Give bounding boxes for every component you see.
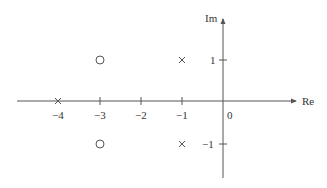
imag-tick-label: −1: [202, 138, 214, 150]
pole-x-icon: [179, 141, 185, 147]
imag-axis-label: Im: [205, 12, 218, 24]
origin-label: 0: [227, 109, 233, 121]
real-tick-label: −3: [94, 109, 106, 121]
zero-circle-icon: [96, 56, 104, 64]
zero-circle-icon: [96, 140, 104, 148]
pole-zero-diagram: Re Im 0 −4 −3 −2 −1 1 −1: [0, 0, 327, 188]
pole-markers: [55, 57, 185, 147]
real-tick-label: −1: [176, 109, 188, 121]
pole-x-icon: [179, 57, 185, 63]
real-tick-label: −2: [135, 109, 147, 121]
real-tick-label: −4: [52, 109, 64, 121]
real-axis-label: Re: [302, 95, 314, 107]
imag-tick-label: 1: [210, 54, 216, 66]
